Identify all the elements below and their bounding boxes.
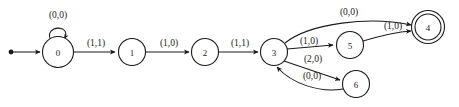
state-node-0[interactable]: 0 — [43, 37, 74, 68]
edge-1-to-2: (1,0) — [146, 38, 189, 52]
edge-3-to-5: (1,0) — [287, 36, 333, 49]
state-node-1[interactable]: 1 — [119, 39, 146, 66]
state-node-2[interactable]: 2 — [192, 39, 219, 66]
state-node-6[interactable]: 6 — [343, 71, 370, 98]
edge-label-2-3: (1,1) — [231, 38, 249, 49]
state-1-label: 1 — [130, 48, 135, 58]
edge-label-0-1: (1,1) — [87, 38, 105, 49]
edge-6-to-3: (0,0) — [277, 67, 343, 90]
state-node-4-accepting[interactable]: 4 — [412, 11, 445, 44]
state-node-3[interactable]: 3 — [261, 39, 288, 66]
edge-5-to-4-path — [363, 31, 411, 41]
edge-0-to-0-self-loop: (0,0) — [49, 10, 67, 40]
edge-label-5-4: (1,0) — [384, 21, 402, 32]
fsm-canvas: (0,0) (1,1) (1,0) (1,1) (0,0) (1,0) — [0, 0, 459, 107]
edge-2-to-3: (1,1) — [219, 38, 258, 52]
edge-label-3-5: (1,0) — [300, 36, 318, 47]
edge-label-1-2: (1,0) — [160, 38, 178, 49]
fsm-diagram: (0,0) (1,1) (1,0) (1,1) (0,0) (1,0) — [0, 0, 459, 107]
initial-arrow — [9, 50, 40, 55]
state-2-label: 2 — [203, 48, 208, 58]
state-5-label: 5 — [348, 41, 353, 51]
state-node-5[interactable]: 5 — [337, 32, 364, 59]
state-6-label: 6 — [354, 80, 359, 90]
state-4-label: 4 — [426, 23, 431, 33]
state-0-label: 0 — [56, 48, 61, 58]
edge-label-3-4: (0,0) — [340, 7, 358, 18]
state-3-label: 3 — [272, 48, 277, 58]
edge-label-3-6: (2,0) — [304, 54, 322, 65]
edge-label-0-0: (0,0) — [49, 10, 67, 21]
edge-0-to-1: (1,1) — [74, 38, 115, 52]
edge-label-6-3: (0,0) — [303, 71, 321, 82]
